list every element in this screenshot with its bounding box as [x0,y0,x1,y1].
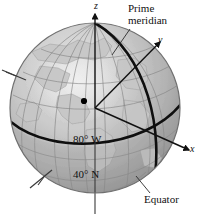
equator-label: Equator [144,194,179,206]
x-axis-label: x [190,144,194,155]
location-point-marker [81,98,87,104]
prime-meridian-label: Prime meridian [128,3,167,27]
y-axis-label: y [158,35,162,46]
coordinate-longitude: 80° W [73,134,101,146]
coordinates-label: 80° W 40° N [73,110,101,193]
globe-diagram [0,0,204,218]
coordinate-latitude: 40° N [73,169,101,181]
z-axis-label: z [94,1,98,12]
